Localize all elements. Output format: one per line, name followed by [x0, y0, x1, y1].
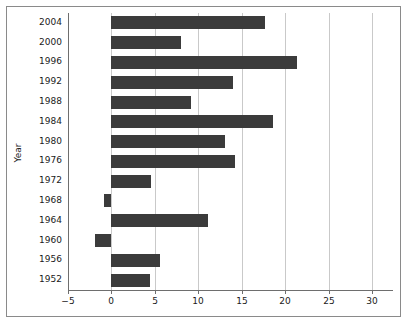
bar-1968	[104, 194, 111, 207]
bar-1964	[111, 214, 207, 227]
y-tick-label-1992: 1992	[20, 76, 62, 86]
y-tick-label-1972: 1972	[20, 175, 62, 185]
y-tick-label-1976: 1976	[20, 155, 62, 165]
y-tick-label-1968: 1968	[20, 195, 62, 205]
gridline-x-15	[242, 13, 243, 290]
bar-1972	[111, 175, 151, 188]
y-tick-label-1956: 1956	[20, 254, 62, 264]
x-tick-label--5: −5	[48, 296, 88, 306]
x-tick-label-20: 20	[265, 296, 305, 306]
bar-1956	[111, 254, 160, 267]
y-tick-label-1980: 1980	[20, 136, 62, 146]
plot-area	[68, 13, 385, 290]
x-tick-label-25: 25	[309, 296, 349, 306]
x-tick-label-0: 0	[91, 296, 131, 306]
y-tick-label-1964: 1964	[20, 215, 62, 225]
x-tick-0	[111, 290, 112, 294]
x-tick--5	[68, 290, 69, 294]
x-tick-label-10: 10	[178, 296, 218, 306]
bar-1960	[95, 234, 112, 247]
bar-2004	[111, 16, 265, 29]
y-tick-label-1952: 1952	[20, 274, 62, 284]
gridline-x-25	[329, 13, 330, 290]
bar-1952	[111, 274, 149, 287]
gridline-x-0	[111, 13, 112, 290]
x-tick-10	[198, 290, 199, 294]
y-tick-label-1960: 1960	[20, 235, 62, 245]
x-tick-label-30: 30	[352, 296, 392, 306]
y-tick-label-1988: 1988	[20, 96, 62, 106]
bar-1992	[111, 76, 233, 89]
bar-1984	[111, 115, 273, 128]
bar-1996	[111, 56, 297, 69]
x-tick-5	[155, 290, 156, 294]
bar-2000	[111, 36, 180, 49]
x-tick-25	[329, 290, 330, 294]
bar-1988	[111, 96, 191, 109]
y-tick-label-2000: 2000	[20, 37, 62, 47]
gridline-x-10	[198, 13, 199, 290]
x-tick-label-5: 5	[135, 296, 175, 306]
gridline-x-20	[285, 13, 286, 290]
y-tick-label-1996: 1996	[20, 56, 62, 66]
y-tick-label-2004: 2004	[20, 17, 62, 27]
x-tick-label-15: 15	[222, 296, 262, 306]
bar-chart-figure: Year −5051015202530 19521956196019641968…	[0, 0, 408, 324]
x-tick-30	[372, 290, 373, 294]
gridline-x-30	[372, 13, 373, 290]
x-tick-15	[242, 290, 243, 294]
x-axis-line	[68, 290, 393, 291]
x-tick-20	[285, 290, 286, 294]
y-axis-line	[68, 13, 69, 290]
gridline-x-5	[155, 13, 156, 290]
bar-1976	[111, 155, 234, 168]
bar-1980	[111, 135, 225, 148]
y-tick-label-1984: 1984	[20, 116, 62, 126]
